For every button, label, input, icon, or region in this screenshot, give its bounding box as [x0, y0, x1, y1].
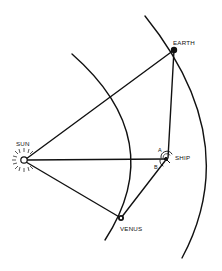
earth-icon — [171, 47, 177, 53]
sun-label: SUN — [16, 140, 30, 147]
venus-orbit — [72, 54, 131, 240]
earth-ship-line — [168, 50, 174, 158]
solar-triangulation-diagram: SUN EARTH VENUS SHIP A B — [0, 0, 222, 271]
angle-b-label: B — [154, 164, 158, 170]
venus-icon — [118, 215, 124, 221]
ship-label: SHIP — [175, 154, 190, 161]
venus-label: VENUS — [120, 225, 142, 232]
angle-a-label: A — [158, 147, 162, 153]
sun-earth-line — [26, 50, 174, 159]
earth-label: EARTH — [173, 39, 195, 46]
ship-icon — [164, 157, 170, 163]
sun-venus-line — [26, 162, 121, 218]
sun-ship-line — [27, 159, 166, 160]
